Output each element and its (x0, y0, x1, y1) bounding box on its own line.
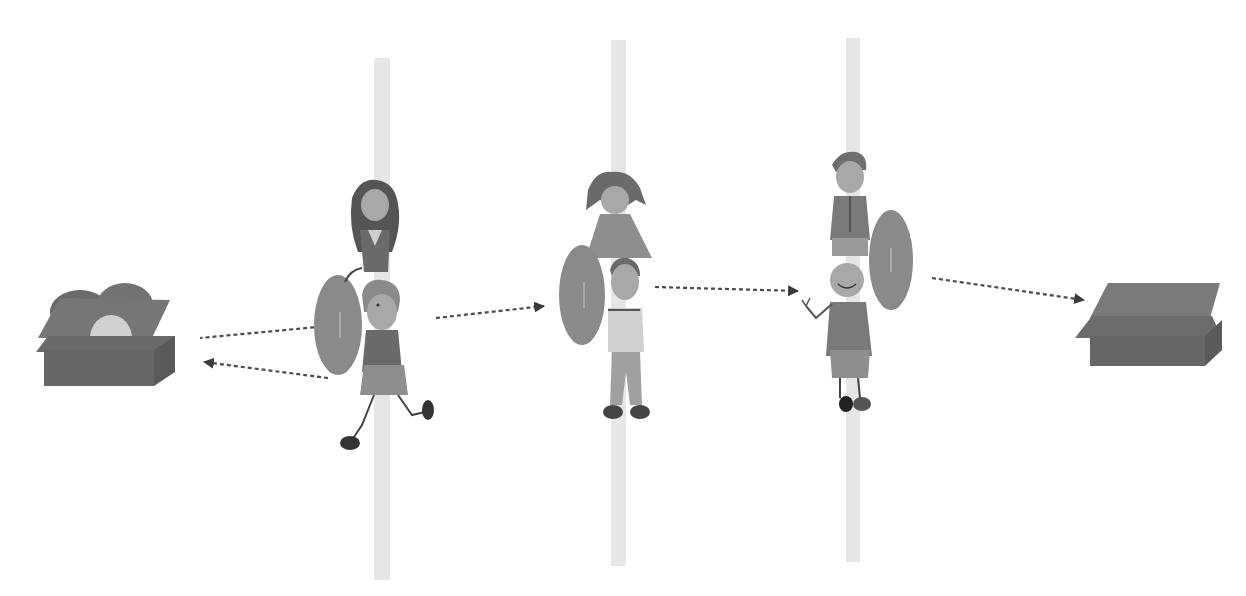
arrow-station3-to-target (932, 278, 1084, 300)
arrow-station1-to-station2 (436, 306, 544, 318)
arrow-station1-to-source-upper (200, 326, 328, 338)
disc-1 (314, 268, 362, 375)
source-box (36, 283, 175, 386)
station-2 (559, 172, 652, 419)
disc-3 (869, 210, 913, 310)
arrow-station2-to-station3 (655, 287, 798, 291)
child-3b (802, 263, 872, 412)
pole-3 (846, 38, 860, 562)
child-2b (603, 258, 650, 419)
child-3a (830, 152, 870, 256)
relay-diagram: Relay passing a disc from a box of balls… (0, 0, 1246, 596)
target-box (1075, 283, 1222, 366)
pole-2 (611, 40, 626, 566)
disc-2 (559, 245, 605, 345)
child-1a (351, 180, 399, 272)
child-2a (586, 172, 652, 258)
arrow-station1-to-source-lower (204, 362, 328, 378)
